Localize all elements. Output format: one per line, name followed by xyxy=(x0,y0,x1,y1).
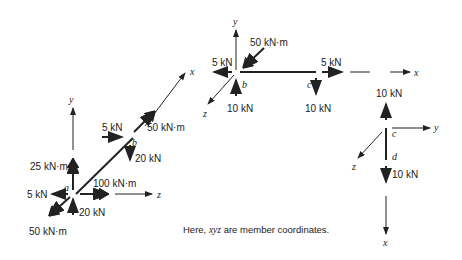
svg-text:20 kN: 20 kN xyxy=(79,207,105,218)
svg-text:10 kN: 10 kN xyxy=(227,103,253,114)
svg-text:d: d xyxy=(392,151,398,162)
svg-text:y: y xyxy=(232,16,238,27)
svg-text:10 kN: 10 kN xyxy=(392,169,418,180)
svg-text:b: b xyxy=(242,79,247,90)
svg-text:20 kN: 20 kN xyxy=(135,153,161,164)
svg-text:x: x xyxy=(382,237,388,248)
x-axis-arrow xyxy=(145,73,185,126)
svg-text:b: b xyxy=(132,137,137,148)
svg-text:5 kN: 5 kN xyxy=(321,57,342,68)
svg-text:z: z xyxy=(202,108,207,119)
svg-text:z: z xyxy=(351,161,356,172)
svg-text:y: y xyxy=(68,94,74,105)
svg-text:y: y xyxy=(433,122,439,133)
svg-text:c: c xyxy=(307,79,312,90)
svg-text:50 kN·m: 50 kN·m xyxy=(250,37,288,48)
caption: Here, xyz are member coordinates. xyxy=(183,224,329,235)
figure-b: x y z 50 kN·m 5 kN b 10 kN 5 kN c 10 kN xyxy=(202,16,419,119)
svg-text:100 kN·m: 100 kN·m xyxy=(93,178,136,189)
svg-text:5 kN: 5 kN xyxy=(102,122,123,133)
figure-a: x y z 25 kN·m 5 kN a 100 kN·m 20 kN 50 k… xyxy=(27,66,195,237)
svg-text:50 kN·m: 50 kN·m xyxy=(29,226,67,237)
svg-text:10 kN: 10 kN xyxy=(305,103,331,114)
svg-text:5 kN: 5 kN xyxy=(27,189,48,200)
structural-diagram: x y z 25 kN·m 5 kN a 100 kN·m 20 kN 50 k… xyxy=(0,0,462,260)
svg-text:c: c xyxy=(392,128,397,139)
svg-text:x: x xyxy=(413,67,419,78)
svg-text:5 kN: 5 kN xyxy=(212,57,233,68)
figure-c: 10 kN y z c d 10 kN x xyxy=(351,88,439,248)
svg-text:z: z xyxy=(156,189,161,200)
svg-text:50 kN·m: 50 kN·m xyxy=(147,122,185,133)
svg-text:10 kN: 10 kN xyxy=(376,88,402,99)
svg-text:a: a xyxy=(64,182,69,193)
svg-text:x: x xyxy=(189,66,195,77)
svg-text:25 kN·m: 25 kN·m xyxy=(30,161,68,172)
